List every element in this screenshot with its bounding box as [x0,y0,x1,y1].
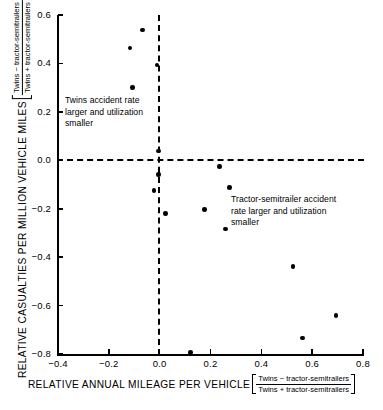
data-point [156,149,161,154]
data-point [140,28,145,33]
x-axis-title: RELATIVE ANNUAL MILEAGE PER VEHICLE Twin… [0,374,383,394]
annotation-lower-right: Tractor-semitrailer accident rate larger… [231,194,336,229]
data-point [156,172,161,177]
x-tick [108,349,110,354]
annotation-upper-left: Twins accident rate larger and utilizati… [65,95,143,130]
data-point [291,264,296,269]
x-tick [57,349,59,354]
x-axis-line [57,354,364,356]
x-fraction-numerator: Twins − tractor-semitrailers [256,374,351,385]
y-fraction-denominator: Twins + tractor-semitrailers [23,0,33,95]
x-axis-title-fraction: Twins − tractor-semitrailers Twins + tra… [252,374,355,394]
data-point [227,185,232,190]
x-fraction-denominator: Twins + tractor-semitrailers [256,385,351,395]
data-point [300,336,305,341]
x-tick-label: 0.6 [292,358,332,369]
x-tick-label: 0.4 [241,358,281,369]
y-tick [58,63,63,65]
x-tick-label: 0.8 [343,358,383,369]
data-point [334,313,339,318]
y-axis-title-fraction: Twins − tractor-semitrailers Twins + tra… [12,0,32,99]
x-tick [261,349,263,354]
y-tick [58,208,63,210]
x-tick [210,349,212,354]
x-tick-label: −0.4 [38,358,78,369]
data-point [152,188,157,193]
data-point [223,227,228,232]
y-tick [58,14,63,16]
x-tick [311,349,313,354]
data-point [130,85,135,90]
y-tick [58,305,63,307]
x-axis-title-text: RELATIVE ANNUAL MILEAGE PER VEHICLE [28,379,250,390]
data-point [163,211,168,216]
chart-canvas: −0.8−0.6−0.4−0.20.00.20.40.6 −0.4−0.20.0… [0,0,383,410]
y-tick [58,111,63,113]
data-point [202,207,207,212]
bracket-right-icon [351,374,355,394]
x-tick-label: −0.2 [89,358,129,369]
bracket-left-icon [12,95,32,99]
horizontal-reference-line [57,159,364,161]
x-tick [362,349,364,354]
x-tick-label: 0.0 [140,358,180,369]
y-axis-title-text: RELATIVE CASUALTIES PER MILLION VEHICLE … [17,101,28,378]
y-axis-title: RELATIVE CASUALTIES PER MILLION VEHICLE … [12,8,32,366]
y-fraction-numerator: Twins − tractor-semitrailers [12,0,23,95]
x-tick-label: 0.2 [191,358,231,369]
x-tick [159,349,161,354]
y-tick [58,159,63,161]
data-point [217,164,222,169]
y-tick [58,256,63,258]
data-point [188,350,193,355]
data-point [128,46,133,51]
